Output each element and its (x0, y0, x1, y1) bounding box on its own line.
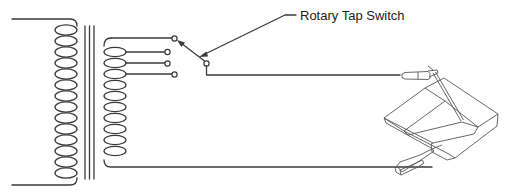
coil-turn (55, 80, 77, 90)
coil-turn (55, 168, 77, 178)
iron-core (85, 26, 94, 179)
coil-turn (104, 69, 126, 78)
coil-turn (55, 47, 77, 57)
primary-coil-loops (55, 25, 77, 178)
coil-turn (104, 58, 126, 67)
coil-turn (104, 102, 126, 111)
switch-pivot-terminal (204, 61, 209, 66)
coil-turn (55, 146, 77, 156)
coil-turn (55, 113, 77, 123)
coil-turn (55, 25, 77, 35)
coil-turn (104, 124, 126, 133)
coil-turn (55, 157, 77, 167)
secondary-top-bend (104, 38, 111, 46)
coil-turn (55, 102, 77, 112)
workpiece (384, 78, 498, 160)
callout-leader-line (203, 15, 296, 55)
tap-terminals (165, 36, 177, 77)
coil-turn (55, 69, 77, 79)
coil-turn (104, 113, 126, 122)
tap-terminal-4 (172, 72, 177, 77)
plate-right-top (425, 78, 498, 127)
switch-label: Rotary Tap Switch (300, 8, 405, 23)
switch-arm (181, 43, 205, 61)
coil-turn (55, 58, 77, 68)
callout-arrowhead-icon (199, 52, 208, 58)
primary-bottom-lead (12, 178, 77, 185)
coil-turn (55, 91, 77, 101)
secondary-bottom-lead (104, 160, 432, 167)
ground-clamp (395, 145, 442, 175)
coil-turn (104, 135, 126, 144)
coil-turn (55, 36, 77, 46)
switch-callout: Rotary Tap Switch (199, 8, 405, 57)
coil-turn (104, 91, 126, 100)
rotary-tap-switch (177, 40, 400, 75)
coil-turn (55, 135, 77, 145)
secondary-coil-loops (104, 47, 126, 155)
switch-output-lead (207, 66, 401, 75)
coil-turn (104, 47, 126, 56)
coil-turn (104, 80, 126, 89)
primary-coil (12, 19, 77, 185)
plate-left-top (384, 88, 445, 131)
tap-terminal-1 (172, 36, 177, 41)
coil-turn (104, 146, 126, 155)
secondary-coil (104, 38, 432, 167)
transformer-welding-diagram: Rotary Tap Switch // Build coil loops (f (0, 0, 508, 193)
tap-terminal-3 (165, 61, 170, 66)
coil-turn (55, 124, 77, 134)
tap-terminal-2 (165, 49, 170, 54)
holder-handle (402, 72, 430, 80)
